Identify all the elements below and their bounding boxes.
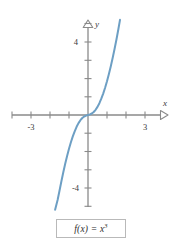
caption-expression: f(x) = x: [74, 225, 104, 235]
y-tick-label-negative-4: -4: [72, 183, 80, 193]
x-tick-label-positive-3: 3: [143, 122, 147, 132]
x-axis-label: x: [162, 98, 167, 108]
y-tick-label-positive-4: 4: [74, 37, 79, 47]
function-caption-box: f(x) = x3: [56, 219, 126, 238]
x-tick-label-negative-3: -3: [27, 122, 34, 132]
function-caption-text: f(x) = x3: [74, 222, 108, 234]
x-axis-arrowhead-icon: [161, 111, 169, 120]
caption-exponent: 3: [104, 222, 107, 229]
cubic-function-figure: -3 3 4 -4 x y f(x) = x3: [0, 0, 182, 245]
function-plot: -3 3 4 -4 x y: [0, 0, 182, 245]
y-axis-label: y: [94, 19, 99, 29]
